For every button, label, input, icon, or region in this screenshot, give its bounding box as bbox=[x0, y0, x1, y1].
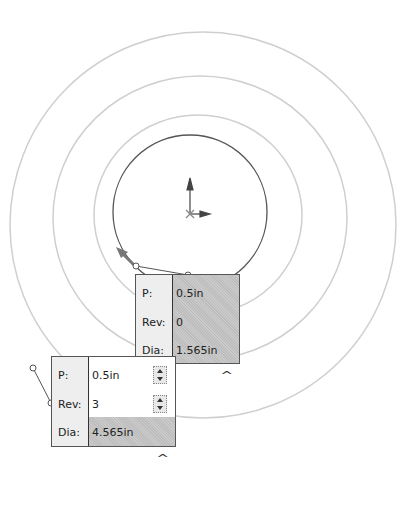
dimension-popup-inner: P: 0.5in Rev: 0 Dia: 1.565in bbox=[135, 274, 240, 364]
revolutions-spinner[interactable] bbox=[153, 395, 167, 413]
dimension-popup-outer: P: 0.5in Rev: 3 Dia: 4.565in bbox=[51, 356, 176, 447]
revolutions-label: Rev: bbox=[142, 316, 166, 329]
collapse-caret-outer[interactable]: ^ bbox=[156, 452, 169, 465]
collapse-caret-inner[interactable]: ^ bbox=[220, 369, 233, 382]
pitch-value[interactable]: 0.5in bbox=[176, 287, 204, 300]
row-diameter: Dia: 4.565in bbox=[52, 417, 175, 447]
pitch-label: P: bbox=[142, 287, 152, 300]
pitch-spinner[interactable] bbox=[153, 366, 167, 384]
diameter-value[interactable]: 1.565in bbox=[176, 344, 218, 357]
revolutions-input[interactable]: 3 bbox=[92, 398, 99, 411]
row-pitch: P: 0.5in bbox=[136, 278, 239, 308]
start-direction-arrow-icon bbox=[116, 247, 135, 266]
pitch-label: P: bbox=[58, 369, 68, 382]
revolutions-value[interactable]: 0 bbox=[176, 316, 183, 329]
diameter-label: Dia: bbox=[142, 344, 164, 357]
origin-icon bbox=[186, 178, 210, 218]
diameter-value[interactable]: 4.565in bbox=[92, 426, 134, 439]
pitch-input[interactable]: 0.5in bbox=[92, 369, 120, 382]
revolutions-label: Rev: bbox=[58, 398, 82, 411]
diameter-label: Dia: bbox=[58, 426, 80, 439]
row-revolutions: Rev: 0 bbox=[136, 307, 239, 337]
